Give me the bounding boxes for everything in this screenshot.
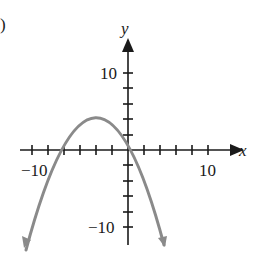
x-axis-label: x	[238, 141, 247, 160]
x-tick-label-neg10: −10	[21, 161, 48, 180]
y-axis-arrow-icon	[122, 38, 134, 52]
y-axis-label: y	[119, 19, 129, 38]
x-tick-label-10: 10	[199, 161, 216, 180]
y-tick-label-10: 10	[100, 64, 117, 83]
parabola-chart: ) x	[0, 0, 258, 263]
y-tick-label-neg10: −10	[88, 218, 115, 237]
curve-right-arrow-icon	[158, 236, 167, 247]
panel-label: )	[0, 15, 6, 34]
x-axis	[20, 145, 232, 155]
